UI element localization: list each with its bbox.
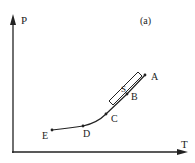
- y-axis-arrow-icon: [10, 14, 16, 25]
- point-d-label: D: [83, 128, 90, 139]
- panel-label: (a): [140, 15, 151, 27]
- point-e-label: E: [42, 130, 48, 141]
- axes: [10, 14, 188, 155]
- x-axis-label: T: [181, 138, 188, 150]
- coexistence-curve: [52, 75, 145, 130]
- point-b-label: B: [131, 91, 138, 102]
- point-a-label: A: [151, 71, 159, 82]
- point-b: [126, 93, 129, 96]
- point-a: [144, 74, 147, 77]
- points: [51, 74, 147, 132]
- point-c: [105, 113, 108, 116]
- y-axis-label: P: [21, 14, 27, 26]
- pt-phase-diagram: P T (a) S A B C D E: [0, 0, 195, 163]
- point-e: [51, 129, 54, 132]
- point-c-label: C: [111, 113, 118, 124]
- point-d: [82, 125, 85, 128]
- strip-label: S: [121, 84, 126, 94]
